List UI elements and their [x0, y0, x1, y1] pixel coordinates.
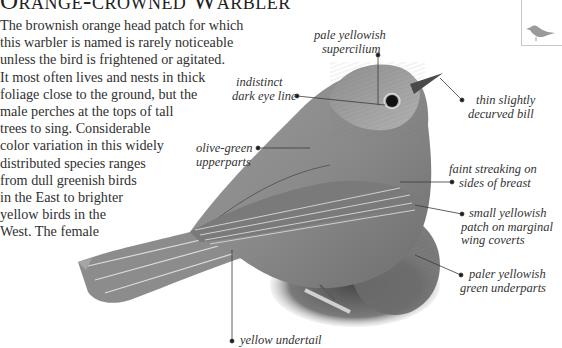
- label-undertail: yellow undertail: [240, 334, 322, 348]
- label-underparts: paler yellowish green underparts: [460, 268, 546, 295]
- label-breast: faint streaking on sides of breast: [449, 163, 537, 190]
- label-bill: thin slightly decurved bill: [468, 94, 535, 121]
- label-wing-patch: small yellowish patch on marginal wing c…: [461, 207, 553, 248]
- label-supercilium: pale yellowish supercilium: [314, 29, 386, 56]
- bird-eye: [386, 95, 398, 107]
- label-eye-line: indistinct dark eye line: [232, 76, 297, 103]
- label-upperparts: olive-green upperparts: [196, 142, 252, 169]
